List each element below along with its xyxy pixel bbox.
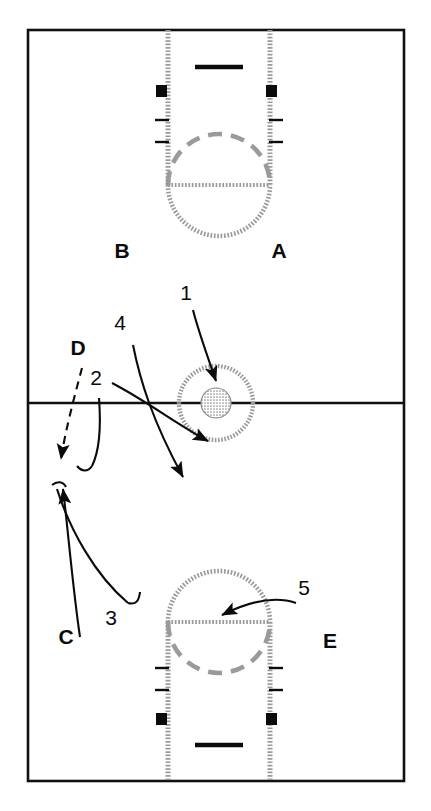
bottom-freethrow-circle-solid — [168, 571, 270, 622]
top-hoop-marker-left — [156, 85, 167, 97]
route-5-arrow — [222, 600, 296, 615]
route-label-4: 4 — [114, 311, 126, 334]
route-2-hook — [77, 466, 92, 471]
position-label-C: C — [58, 625, 73, 648]
route-3-hook — [128, 592, 140, 604]
bottom-hoop-marker-left — [156, 713, 167, 725]
route-label-2: 2 — [90, 366, 102, 389]
center-circle-inner — [201, 388, 231, 418]
bottom-key-group — [155, 571, 283, 781]
bottom-freethrow-circle-dashed — [168, 622, 270, 673]
top-hoop-marker-right — [266, 85, 277, 97]
top-freethrow-circle-solid — [168, 185, 270, 236]
basketball-court-diagram: B A D C E 1 2 3 4 5 — [0, 0, 431, 811]
route-label-5: 5 — [298, 576, 310, 599]
route-2-path — [92, 398, 100, 466]
position-label-E: E — [323, 629, 337, 652]
route-3-path — [57, 489, 128, 603]
route-label-3: 3 — [105, 606, 117, 629]
route-D-dashed-arrow — [61, 368, 82, 459]
route-3-screen-bar — [52, 482, 66, 487]
top-key-group — [155, 30, 283, 236]
route-label-1: 1 — [180, 281, 192, 304]
bottom-hoop-marker-right — [266, 713, 277, 725]
position-label-A: A — [271, 239, 286, 262]
position-label-D: D — [70, 336, 85, 359]
top-freethrow-circle-dashed — [168, 134, 270, 185]
position-label-B: B — [114, 239, 129, 262]
court-svg: B A D C E 1 2 3 4 5 — [0, 0, 431, 811]
